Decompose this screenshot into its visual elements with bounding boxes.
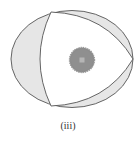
- reuleaux-in-ellipse-diagram: [0, 0, 136, 116]
- central-gear-icon: [70, 48, 95, 73]
- figure-caption: (iii): [0, 120, 136, 131]
